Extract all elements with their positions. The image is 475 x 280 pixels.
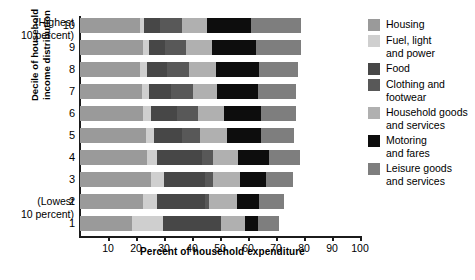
bar-segment (259, 62, 298, 77)
legend-item: Household goods and services (368, 106, 475, 131)
bar-track (80, 128, 360, 143)
legend-swatch (368, 163, 380, 175)
legend-item: Fuel, light and power (368, 34, 475, 59)
bar-row-label: 10 (56, 18, 75, 33)
legend-swatch (368, 107, 380, 119)
bar-row: 5 (80, 128, 360, 143)
bar-segment (80, 194, 143, 209)
x-axis-tick (332, 236, 334, 241)
bar-track (80, 62, 360, 77)
bar-track (80, 106, 360, 121)
bar-segment (143, 106, 151, 121)
bar-segment (177, 106, 198, 121)
bar-row: 8 (80, 62, 360, 77)
bar-row-label: 9 (56, 40, 75, 55)
bar-segment (266, 172, 293, 187)
legend-label: Household goods and services (386, 106, 468, 131)
bar-segment (140, 62, 147, 77)
x-axis-tick (276, 236, 278, 241)
bar-segment (186, 40, 211, 55)
legend-swatch (368, 63, 380, 75)
bar-segment (171, 84, 193, 99)
x-axis-tick (192, 236, 194, 241)
bar-row-label: 8 (56, 62, 75, 77)
y-axis-title-line2: income distribution (41, 0, 53, 145)
bar-track (80, 172, 360, 187)
bar-segment (258, 84, 296, 99)
bar-segment (227, 128, 261, 143)
bar-row-label: 6 (56, 106, 75, 121)
bar-segment (144, 18, 159, 33)
legend-swatch (368, 135, 380, 147)
bar-segment (240, 172, 267, 187)
bar-row-label: 1 (56, 216, 75, 231)
bar-segment (224, 106, 260, 121)
x-axis-tick (136, 236, 138, 241)
bar-row-label: 4 (56, 150, 75, 165)
bar-row: 10 (80, 18, 360, 33)
legend-label: Leisure goods and services (386, 162, 452, 187)
bar-segment (143, 194, 157, 209)
bar-segment (80, 150, 147, 165)
bar-segment (269, 150, 300, 165)
bar-segment (149, 40, 166, 55)
bar-segment (256, 40, 301, 55)
bar-segment (216, 62, 259, 77)
bar-segment (167, 62, 189, 77)
legend-swatch (368, 35, 380, 47)
bar-segment (238, 150, 269, 165)
bar-segment (157, 150, 202, 165)
bar-row-label: 2 (56, 194, 75, 209)
bar-track (80, 194, 360, 209)
bar-segment (207, 18, 250, 33)
x-axis-tick (220, 236, 222, 241)
bar-segment (80, 106, 143, 121)
bar-segment (245, 216, 258, 231)
bar-segment (193, 84, 217, 99)
bar-segment (221, 216, 245, 231)
legend-label: Fuel, light and power (386, 34, 435, 59)
bar-segment (80, 62, 140, 77)
legend-swatch (368, 79, 380, 91)
bar-segment (146, 128, 154, 143)
bar-segment (164, 172, 205, 187)
x-axis-tick (304, 236, 306, 241)
bar-segment (213, 172, 240, 187)
bar-segment (261, 106, 296, 121)
bar-segment (165, 40, 186, 55)
bar-segment (251, 18, 301, 33)
legend-label: Clothing and footwear (386, 78, 445, 103)
bar-segment (147, 150, 157, 165)
bar-segment (154, 128, 182, 143)
chart-legend: HousingFuel, light and powerFoodClothing… (368, 18, 475, 190)
legend-swatch (368, 19, 380, 31)
bar-row-label: 3 (56, 172, 75, 187)
bar-segment (151, 172, 164, 187)
bar-row: 3 (80, 172, 360, 187)
bar-row: 4 (80, 150, 360, 165)
y-axis-title: Decile of household income distribution (29, 0, 59, 145)
plot-area: 10987654321 102030405060708090100 (80, 16, 360, 236)
bar-segment (258, 216, 279, 231)
y-axis-title-line1: Decile of household (29, 0, 41, 145)
legend-item: Motoring and fares (368, 134, 475, 159)
bar-segment (200, 128, 227, 143)
bar-segment (217, 84, 258, 99)
bar-segment (80, 40, 143, 55)
bar-segment (142, 84, 149, 99)
x-axis-tick (164, 236, 166, 241)
bar-segment (80, 84, 142, 99)
bar-row: 1 (80, 216, 360, 231)
bar-segment (237, 194, 259, 209)
bar-segment (202, 150, 213, 165)
bar-segment (80, 18, 140, 33)
legend-label: Food (386, 62, 410, 75)
bar-segment (147, 62, 167, 77)
legend-item: Leisure goods and services (368, 162, 475, 187)
bar-segment (151, 106, 176, 121)
bar-row: 2 (80, 194, 360, 209)
bar-track (80, 18, 360, 33)
bar-row: 6 (80, 106, 360, 121)
bar-segment (198, 106, 225, 121)
bar-segment (149, 84, 171, 99)
